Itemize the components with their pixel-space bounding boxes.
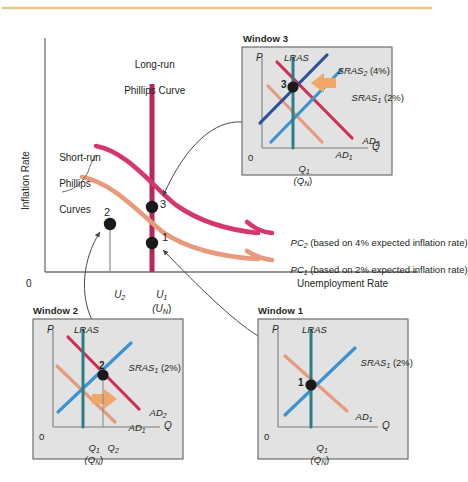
window1-xtick-qn: (QN) bbox=[300, 443, 329, 477]
window1-sras1-name: SRAS bbox=[361, 357, 387, 368]
window1-origin-label: 0 bbox=[264, 431, 269, 442]
window1-ad1-name: AD bbox=[356, 411, 369, 422]
window1-lras-label: LRAS bbox=[302, 324, 327, 335]
window1-x-axis-label: Q bbox=[382, 420, 390, 431]
window1-y-axis-label: P bbox=[272, 324, 279, 335]
window1-ad1-sub: 1 bbox=[369, 416, 373, 423]
window1-point bbox=[305, 379, 316, 390]
window1-ad1-label: AD1 bbox=[345, 400, 373, 434]
window1-sras1-label: SRAS1 (2%) bbox=[350, 346, 413, 380]
window1-point-label: 1 bbox=[298, 377, 304, 388]
window1-sras1-suffix: (2%) bbox=[390, 357, 413, 368]
window1-background bbox=[258, 319, 408, 459]
window1-xtick-qn-name: (Q bbox=[311, 454, 322, 465]
window1-xtick-qn-tail: ) bbox=[326, 454, 329, 465]
